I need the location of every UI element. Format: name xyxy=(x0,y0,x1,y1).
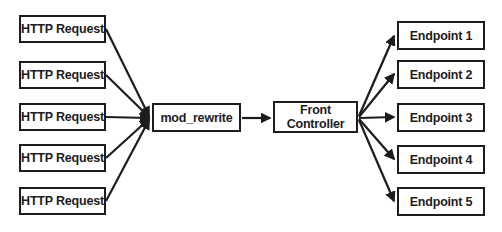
arrow-frontcontroller-to-endpoint2 xyxy=(359,74,394,117)
endpoint-label: Endpoint 1 xyxy=(410,29,473,43)
http-request-label: HTTP Request xyxy=(21,194,104,208)
arrow-frontcontroller-to-endpoint4 xyxy=(359,119,394,159)
arrow-frontcontroller-to-endpoint5 xyxy=(359,120,394,201)
http-request-box-2: HTTP Request xyxy=(19,61,106,89)
endpoint-label: Endpoint 2 xyxy=(410,68,473,82)
arrow-frontcontroller-to-endpoint1 xyxy=(359,36,394,116)
arrow-http3-to-modrewrite xyxy=(106,117,149,118)
mod-rewrite-label: mod_rewrite xyxy=(160,111,232,125)
http-request-label: HTTP Request xyxy=(21,151,104,165)
endpoint-box-1: Endpoint 1 xyxy=(397,21,485,50)
arrow-http4-to-modrewrite xyxy=(106,119,149,158)
http-request-label: HTTP Request xyxy=(21,68,104,82)
http-request-box-5: HTTP Request xyxy=(19,187,106,215)
request-routing-diagram: HTTP Request HTTP Request HTTP Request H… xyxy=(0,0,502,232)
http-request-box-3: HTTP Request xyxy=(19,103,106,131)
endpoint-box-5: Endpoint 5 xyxy=(397,187,485,216)
endpoint-box-3: Endpoint 3 xyxy=(397,103,485,132)
endpoint-box-4: Endpoint 4 xyxy=(397,145,485,174)
front-controller-label-line2: Controller xyxy=(287,117,345,131)
http-request-box-1: HTTP Request xyxy=(19,15,106,43)
arrow-http2-to-modrewrite xyxy=(106,75,149,117)
endpoint-label: Endpoint 3 xyxy=(410,111,473,125)
endpoint-label: Endpoint 4 xyxy=(410,153,473,167)
arrow-frontcontroller-to-endpoint3 xyxy=(359,117,394,118)
endpoint-label: Endpoint 5 xyxy=(410,195,473,209)
endpoint-box-2: Endpoint 2 xyxy=(397,60,485,89)
arrow-http1-to-modrewrite xyxy=(106,29,149,116)
front-controller-box: Front Controller xyxy=(273,101,358,133)
http-request-label: HTTP Request xyxy=(21,22,104,36)
mod-rewrite-box: mod_rewrite xyxy=(152,103,241,132)
arrow-http5-to-modrewrite xyxy=(106,120,149,201)
http-request-label: HTTP Request xyxy=(21,110,104,124)
http-request-box-4: HTTP Request xyxy=(19,144,106,172)
front-controller-label-line1: Front xyxy=(300,103,331,117)
